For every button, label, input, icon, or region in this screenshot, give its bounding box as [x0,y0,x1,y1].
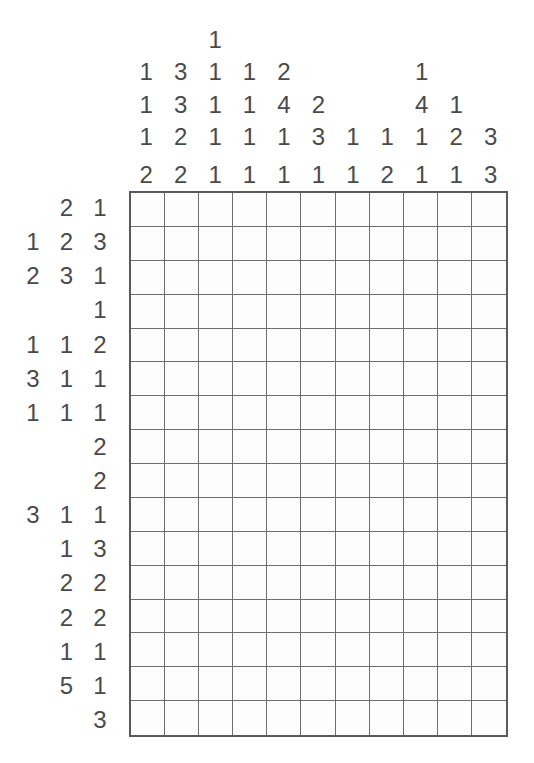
grid-cell[interactable] [267,295,301,329]
grid-cell[interactable] [336,600,370,634]
grid-cell[interactable] [233,362,267,396]
grid-cell[interactable] [438,600,472,634]
grid-cell[interactable] [404,430,438,464]
grid-cell[interactable] [370,430,404,464]
grid-cell[interactable] [472,633,506,667]
grid-cell[interactable] [199,362,233,396]
grid-cell[interactable] [472,396,506,430]
grid-cell[interactable] [472,566,506,600]
grid-cell[interactable] [438,532,472,566]
grid-cell[interactable] [131,295,165,329]
grid-cell[interactable] [165,498,199,532]
grid-cell[interactable] [199,600,233,634]
grid-cell[interactable] [404,566,438,600]
grid-cell[interactable] [267,566,301,600]
grid-cell[interactable] [267,633,301,667]
grid-cell[interactable] [131,498,165,532]
grid-cell[interactable] [404,464,438,498]
grid-cell[interactable] [370,498,404,532]
grid-cell[interactable] [199,295,233,329]
grid-cell[interactable] [131,464,165,498]
grid-cell[interactable] [370,633,404,667]
grid-cell[interactable] [301,227,335,261]
grid-cell[interactable] [131,532,165,566]
grid-cell[interactable] [131,261,165,295]
grid-cell[interactable] [267,464,301,498]
grid-cell[interactable] [472,329,506,363]
grid-cell[interactable] [131,227,165,261]
grid-cell[interactable] [199,701,233,735]
grid-cell[interactable] [301,701,335,735]
grid-cell[interactable] [370,464,404,498]
grid-cell[interactable] [438,362,472,396]
grid-cell[interactable] [404,498,438,532]
grid-cell[interactable] [233,667,267,701]
grid-cell[interactable] [267,701,301,735]
grid-cell[interactable] [267,430,301,464]
grid-cell[interactable] [233,295,267,329]
grid-cell[interactable] [438,464,472,498]
grid-cell[interactable] [404,295,438,329]
grid-cell[interactable] [404,329,438,363]
grid-cell[interactable] [472,532,506,566]
grid-cell[interactable] [472,227,506,261]
grid-cell[interactable] [472,193,506,227]
grid-cell[interactable] [267,329,301,363]
grid-cell[interactable] [165,532,199,566]
grid-cell[interactable] [336,633,370,667]
grid-cell[interactable] [336,667,370,701]
grid-cell[interactable] [301,261,335,295]
grid-cell[interactable] [438,329,472,363]
grid-cell[interactable] [404,667,438,701]
grid-cell[interactable] [404,701,438,735]
grid-cell[interactable] [472,667,506,701]
grid-cell[interactable] [370,566,404,600]
grid-cell[interactable] [438,396,472,430]
grid-cell[interactable] [336,464,370,498]
grid-cell[interactable] [404,193,438,227]
grid-cell[interactable] [370,329,404,363]
grid-cell[interactable] [370,193,404,227]
grid-cell[interactable] [199,329,233,363]
grid-cell[interactable] [472,362,506,396]
grid-cell[interactable] [370,396,404,430]
grid-cell[interactable] [267,261,301,295]
grid-cell[interactable] [336,227,370,261]
grid-cell[interactable] [233,261,267,295]
grid-cell[interactable] [301,295,335,329]
grid-cell[interactable] [336,261,370,295]
grid-cell[interactable] [301,396,335,430]
grid-cell[interactable] [131,329,165,363]
grid-cell[interactable] [301,193,335,227]
grid-cell[interactable] [438,227,472,261]
grid-cell[interactable] [472,701,506,735]
grid-cell[interactable] [438,261,472,295]
grid-cell[interactable] [301,566,335,600]
grid-cell[interactable] [131,396,165,430]
grid-cell[interactable] [267,227,301,261]
grid-cell[interactable] [165,362,199,396]
grid-cell[interactable] [438,193,472,227]
grid-cell[interactable] [165,396,199,430]
grid-cell[interactable] [301,498,335,532]
grid-cell[interactable] [301,532,335,566]
grid-cell[interactable] [404,633,438,667]
grid-cell[interactable] [165,261,199,295]
grid-cell[interactable] [199,566,233,600]
grid-cell[interactable] [165,633,199,667]
grid-cell[interactable] [301,600,335,634]
grid-cell[interactable] [472,261,506,295]
grid-cell[interactable] [438,295,472,329]
grid-cell[interactable] [336,193,370,227]
grid-cell[interactable] [165,329,199,363]
grid-cell[interactable] [165,193,199,227]
grid-cell[interactable] [438,633,472,667]
grid-cell[interactable] [336,362,370,396]
grid-cell[interactable] [404,227,438,261]
grid-cell[interactable] [472,464,506,498]
grid-cell[interactable] [438,667,472,701]
grid-cell[interactable] [131,600,165,634]
grid-cell[interactable] [199,227,233,261]
grid-cell[interactable] [199,193,233,227]
grid-cell[interactable] [233,498,267,532]
